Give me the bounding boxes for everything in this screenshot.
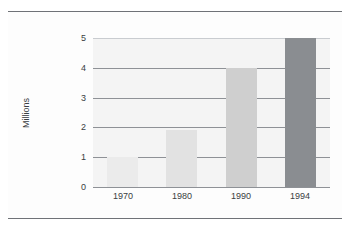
y-tick-label: 3 — [72, 94, 86, 103]
bar-1994 — [285, 38, 316, 187]
x-tick-label: 1990 — [231, 192, 251, 201]
y-axis-tick-labels: 012345 — [72, 38, 86, 187]
x-tick-label: 1970 — [113, 192, 133, 201]
y-axis-title: Millions — [21, 98, 31, 128]
x-axis-tick-labels: 1970198019901994 — [93, 192, 330, 206]
y-tick-label: 2 — [72, 123, 86, 132]
bar-1980 — [166, 130, 197, 187]
gridline — [93, 187, 330, 188]
bar-1990 — [226, 68, 257, 187]
x-tick-label: 1994 — [290, 192, 310, 201]
plot-area — [93, 38, 330, 187]
y-tick-label: 4 — [72, 64, 86, 73]
bottom-rule — [8, 218, 342, 219]
y-tick-label: 1 — [72, 153, 86, 162]
bar-chart-figure: Millions 012345 1970198019901994 — [0, 0, 350, 231]
y-tick-label: 5 — [72, 34, 86, 43]
bar-1970 — [107, 157, 138, 187]
y-tick-label: 0 — [72, 183, 86, 192]
x-tick-label: 1980 — [172, 192, 192, 201]
bar-series — [93, 38, 330, 187]
